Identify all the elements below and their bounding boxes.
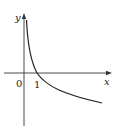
x-axis-arrow-icon: [106, 71, 112, 75]
origin-label: 0: [16, 78, 22, 89]
tick-label-1: 1: [34, 79, 40, 90]
x-axis-label: x: [104, 76, 110, 87]
y-axis-arrow-icon: [22, 13, 26, 19]
y-axis-label: y: [14, 12, 21, 23]
curve: [27, 20, 103, 103]
graph: y 0 1 x: [0, 0, 118, 129]
